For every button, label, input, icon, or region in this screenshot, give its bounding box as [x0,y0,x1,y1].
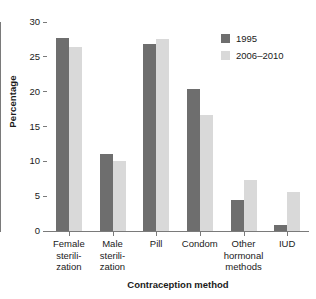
x-tick-mark [69,232,70,236]
legend-item: 1995 [221,31,284,46]
bar-chart: Percentage 051015202530 Female sterili- … [0,0,316,299]
legend-swatch [221,34,230,43]
bar [100,154,113,231]
legend: 19952006–2010 [221,31,284,65]
x-tick-mark [287,232,288,236]
y-tick-label: 10 [29,154,40,168]
x-axis-category-label: IUD [265,238,309,250]
x-axis-title: Contraception method [47,279,309,290]
y-tick-label: 15 [29,120,40,134]
bar [156,39,169,231]
y-tick-label: 25 [29,50,40,64]
bar [143,44,156,231]
legend-swatch [221,51,230,60]
y-tick-label: 30 [29,15,40,29]
y-tick-label: 0 [35,224,40,238]
y-axis-title: Percentage [7,62,18,142]
bar [231,200,244,231]
bar [244,180,257,231]
bar [113,161,126,231]
x-tick-mark [156,232,157,236]
legend-label: 1995 [236,33,257,44]
bar [287,192,300,231]
x-axis-category-label: Female sterili- zation [47,238,91,273]
bar [187,89,200,231]
x-axis-category-label: Male sterili- zation [91,238,135,273]
x-tick-mark [113,232,114,236]
legend-item: 2006–2010 [221,48,284,63]
y-axis-line [0,22,1,232]
x-axis-category-label: Pill [134,238,178,250]
bar [56,38,69,231]
bar [69,47,82,231]
bar [274,225,287,231]
x-axis-category-label: Other hormonal methods [222,238,266,273]
y-tick-label: 20 [29,85,40,99]
y-tick-label: 5 [35,189,40,203]
x-tick-mark [244,232,245,236]
x-axis-line [47,231,309,232]
x-tick-mark [200,232,201,236]
x-axis-category-label: Condom [178,238,222,250]
legend-label: 2006–2010 [236,50,284,61]
bar [200,115,213,231]
